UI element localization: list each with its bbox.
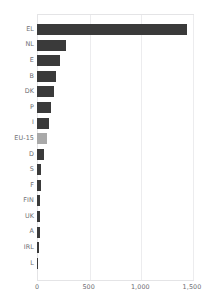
bar-row: [37, 69, 192, 85]
bar-i: [37, 118, 49, 129]
category-label-e: E: [0, 53, 34, 69]
category-label-a: A: [0, 224, 34, 240]
category-label-dk: DK: [0, 84, 34, 100]
value-axis-labels: 05001,0001,500: [0, 282, 202, 296]
bar-row: [37, 193, 192, 209]
bar-b: [37, 71, 56, 82]
bar-l: [37, 258, 38, 269]
category-label-irl: IRL: [0, 240, 34, 256]
bar-eu-15: [37, 133, 47, 144]
bar-row: [37, 224, 192, 240]
x-tick-label: 1,500: [183, 282, 202, 292]
category-label-i: I: [0, 115, 34, 131]
category-label-f: F: [0, 178, 34, 194]
x-tick-label: 500: [82, 282, 95, 292]
x-tick-label: 1,000: [131, 282, 150, 292]
bar-row: [37, 53, 192, 69]
bar-row: [37, 178, 192, 194]
bar-row: [37, 240, 192, 256]
bar-row: [37, 37, 192, 53]
category-label-l: L: [0, 256, 34, 272]
bar-row: [37, 100, 192, 116]
category-label-uk: UK: [0, 209, 34, 225]
bar-row: [37, 115, 192, 131]
category-label-el: EL: [0, 22, 34, 38]
bar-row: [37, 162, 192, 178]
bar-row: [37, 131, 192, 147]
gridline: [193, 15, 194, 280]
bar-dk: [37, 86, 54, 97]
category-label-b: B: [0, 69, 34, 85]
bar-row: [37, 209, 192, 225]
bar-a: [37, 227, 40, 238]
bar-row: [37, 147, 192, 163]
bar-irl: [37, 242, 39, 253]
category-axis-labels: ELNLEBDKPIEU-15DSFFINUKAIRLL: [0, 14, 34, 279]
bar-d: [37, 149, 44, 160]
category-label-p: P: [0, 100, 34, 116]
bar-fin: [37, 195, 40, 206]
category-label-s: S: [0, 162, 34, 178]
bar-uk: [37, 211, 40, 222]
bar-s: [37, 164, 41, 175]
bar-row: [37, 84, 192, 100]
category-label-d: D: [0, 147, 34, 163]
bars-layer: [37, 14, 192, 279]
bar-row: [37, 22, 192, 38]
bar-nl: [37, 40, 66, 51]
bar-e: [37, 55, 60, 66]
chart-title: [0, 0, 202, 3]
bar-p: [37, 102, 51, 113]
bar-f: [37, 180, 41, 191]
category-label-nl: NL: [0, 37, 34, 53]
category-label-fin: FIN: [0, 193, 34, 209]
bar-el: [37, 24, 187, 35]
x-tick-label: 0: [35, 282, 39, 292]
bar-row: [37, 256, 192, 272]
bar-chart: ELNLEBDKPIEU-15DSFFINUKAIRLL 05001,0001,…: [0, 0, 202, 305]
category-label-eu-15: EU-15: [0, 131, 34, 147]
